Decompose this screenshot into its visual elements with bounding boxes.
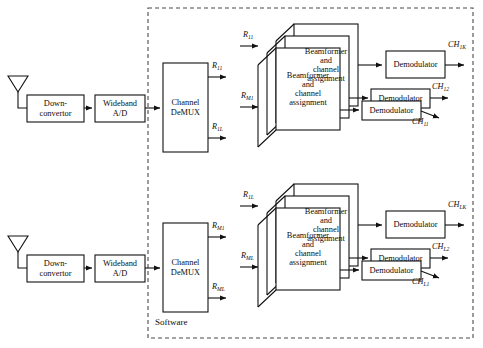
downconvertor-line1: Down-: [44, 99, 67, 108]
beamformer-line2: and: [302, 80, 314, 89]
demux-output-label-1-2: R1L: [212, 123, 223, 132]
channel-output-label-2-2: CHL2: [432, 243, 449, 252]
beamformer-line4: assignment: [289, 98, 327, 107]
beamformer-line3: channel: [295, 89, 321, 98]
demux-label-2: Channel DeMUX: [163, 223, 208, 312]
beamformer-input-label-1-2: RM1: [241, 92, 253, 101]
downconvertor-label-1: Down- convertor: [27, 95, 84, 122]
channel-output-label-2-1: CHLK: [448, 201, 466, 210]
adc-line2: A/D: [113, 109, 127, 118]
beamformer-line1: Beamformer: [287, 71, 329, 80]
demux-output-label-2-1: RM1: [212, 222, 224, 231]
downconvertor-line2: convertor: [39, 109, 71, 118]
beamformer-label-1a: Beamformer and channel assignment: [276, 48, 340, 130]
demodulator-label-1c: Demodulator: [386, 51, 445, 78]
beamformer-input-label-2-2: RML: [241, 252, 254, 261]
adc-line1: Wideband: [103, 99, 137, 108]
beamformer-input-label-1-1: R11: [243, 31, 253, 40]
adc-label-2: Wideband A/D: [95, 255, 145, 282]
antenna-1-icon: [8, 76, 28, 92]
adc-label-1: Wideband A/D: [95, 95, 145, 122]
demux-line1: Channel: [172, 98, 200, 107]
software-boundary-label: Software: [155, 318, 188, 327]
channel-output-label-2-3: CHL1: [412, 278, 429, 287]
channel-output-label-1-3: CH11: [412, 118, 429, 127]
beamformer-label-2a: Beamformer and channel assignment: [276, 208, 340, 290]
demux-output-label-2-2: RML: [212, 283, 225, 292]
beamformer-input-label-2-1: R1L: [243, 191, 254, 200]
channel-output-label-1-1: CH1K: [448, 41, 466, 50]
downconvertor-label-2: Down- convertor: [27, 255, 84, 282]
demux-line2: DeMUX: [171, 108, 200, 117]
antenna-2-icon: [8, 236, 28, 252]
demodulator-label-2c: Demodulator: [386, 211, 445, 238]
diagram-canvas: Down- convertor Wideband A/D Channel DeM…: [0, 0, 483, 348]
demux-label-1: Channel DeMUX: [163, 63, 208, 152]
channel-output-label-1-2: CH12: [432, 83, 449, 92]
demux-output-label-1-1: R11: [212, 62, 222, 71]
